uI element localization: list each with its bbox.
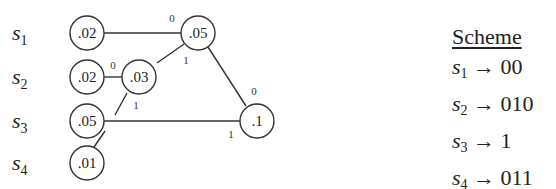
arrow-icon: → (473, 128, 495, 153)
edge-s4-n03-upper (115, 93, 127, 115)
scheme-row-s3: s3 → 1 (452, 126, 534, 163)
scheme-row-s1: s1 → 00 (452, 52, 534, 89)
code: 00 (501, 54, 523, 79)
bit-n03-n05: 1 (183, 54, 189, 66)
arrow-icon: → (473, 91, 495, 116)
symbol-label-s2: s2 (12, 64, 28, 92)
edge-n05-n1 (208, 47, 246, 106)
prob-s1: .02 (78, 25, 97, 41)
bit-n05-n1: 0 (251, 85, 257, 97)
code: 010 (501, 91, 534, 116)
code: 1 (501, 128, 512, 153)
bit-s3-n1: 1 (228, 128, 234, 140)
symbol-label-s3: s3 (12, 108, 28, 136)
prob-s4: .01 (78, 155, 97, 171)
prob-n05: .05 (189, 25, 208, 41)
bit-s2-n03: 0 (110, 59, 116, 71)
coding-scheme: Scheme s1 → 00 s2 → 010 s3 → 1 s4 → 011 (452, 22, 534, 189)
symbol-label-s4: s4 (12, 150, 28, 178)
arrow-icon: → (473, 54, 495, 79)
edge-n03-n05 (157, 44, 184, 63)
scheme-title: Scheme (452, 22, 534, 52)
code: 011 (501, 165, 533, 189)
bit-s4-n03: 1 (133, 99, 139, 111)
prob-n03: .03 (130, 69, 149, 85)
arrow-icon: → (473, 165, 495, 189)
prob-n1: .1 (251, 113, 262, 129)
bit-s1-n05: 0 (169, 12, 175, 24)
prob-s3: .05 (78, 113, 97, 129)
scheme-row-s2: s2 → 010 (452, 89, 534, 126)
prob-s2: .02 (78, 69, 97, 85)
scheme-row-s4: s4 → 011 (452, 163, 534, 189)
symbol-label-s1: s1 (12, 20, 28, 48)
